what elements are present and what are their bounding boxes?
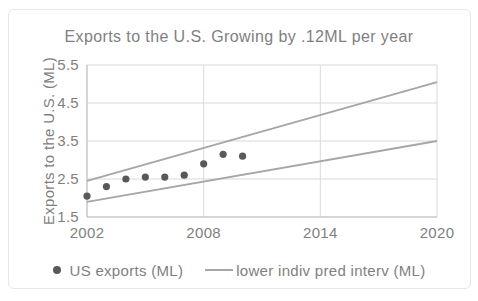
data-point-2006: [161, 174, 168, 181]
plot-area: [0, 0, 478, 301]
legend: US exports (ML) lower indiv pred interv …: [0, 260, 478, 280]
data-point-2005: [142, 174, 149, 181]
x-tick-label: 2002: [57, 224, 117, 242]
y-tick-label: 4.5: [45, 94, 79, 112]
data-point-2010: [239, 153, 246, 160]
line-marker-icon: [205, 269, 233, 271]
data-point-2002: [83, 193, 90, 200]
data-point-2007: [181, 172, 188, 179]
x-tick-label: 2008: [174, 224, 234, 242]
legend-item-lower-pred-interv: lower indiv pred interv (ML): [205, 262, 425, 279]
scatter-dot-marker-icon: [53, 266, 61, 274]
x-tick-label: 2020: [407, 224, 467, 242]
lower-pred-interval-line: [87, 141, 437, 202]
y-tick-label: 5.5: [45, 56, 79, 74]
data-point-2008: [200, 160, 207, 167]
data-point-2004: [122, 175, 129, 182]
data-point-2009: [220, 151, 227, 158]
y-tick-label: 3.5: [45, 132, 79, 150]
upper-pred-interval-line: [87, 82, 437, 181]
y-tick-label: 2.5: [45, 170, 79, 188]
data-point-2003: [103, 183, 110, 190]
legend-label-lower-pred-interv: lower indiv pred interv (ML): [236, 262, 425, 279]
x-tick-label: 2014: [290, 224, 350, 242]
legend-label-us-exports: US exports (ML): [70, 262, 184, 279]
legend-item-us-exports: US exports (ML): [53, 262, 184, 279]
